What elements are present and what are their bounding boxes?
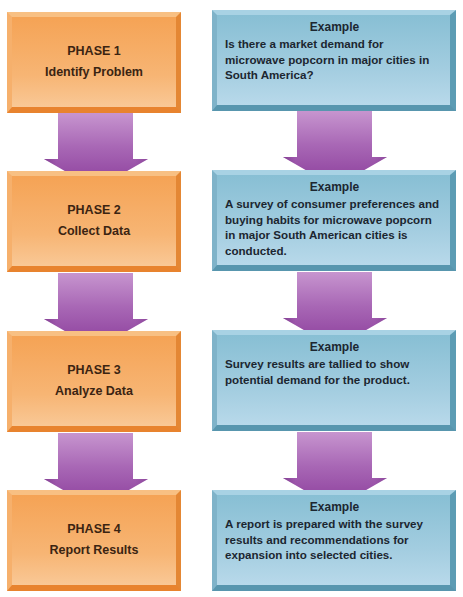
example-text: A report is prepared with the survey res… <box>225 516 444 563</box>
phase-title: PHASE 3 <box>67 360 121 381</box>
example-text: Survey results are tallied to show poten… <box>225 356 444 387</box>
phase-title: PHASE 4 <box>67 519 121 540</box>
phase-box-3: PHASE 3 Analyze Data <box>7 331 181 432</box>
phase-box-2: PHASE 2 Collect Data <box>7 171 181 272</box>
phase-box-4: PHASE 4 Report Results <box>7 490 181 591</box>
example-heading: Example <box>225 339 444 356</box>
phase-title: PHASE 2 <box>67 200 121 221</box>
example-box-2: Example A survey of consumer preferences… <box>212 170 456 271</box>
example-text: Is there a market demand for microwave p… <box>225 36 444 83</box>
phase-name: Report Results <box>50 540 139 561</box>
example-heading: Example <box>225 499 444 516</box>
example-box-3: Example Survey results are tallied to sh… <box>212 330 456 431</box>
phase-name: Analyze Data <box>55 381 133 402</box>
phase-name: Collect Data <box>58 221 130 242</box>
phase-title: PHASE 1 <box>67 41 121 62</box>
example-heading: Example <box>225 179 444 196</box>
phase-name: Identify Problem <box>45 62 143 83</box>
example-box-1: Example Is there a market demand for mic… <box>212 10 456 111</box>
example-box-4: Example A report is prepared with the su… <box>212 490 456 591</box>
example-text: A survey of consumer preferences and buy… <box>225 196 444 258</box>
phase-box-1: PHASE 1 Identify Problem <box>7 12 181 113</box>
example-heading: Example <box>225 19 444 36</box>
